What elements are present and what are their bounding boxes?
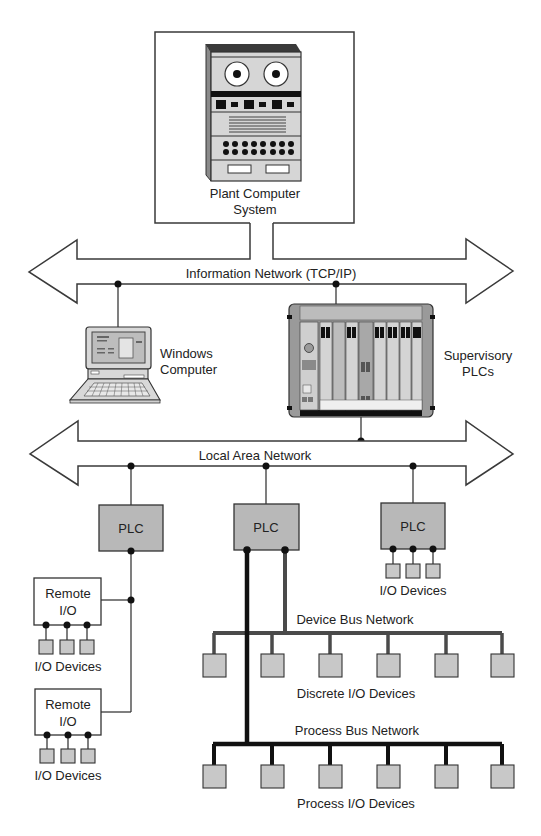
junction-dot (333, 281, 340, 288)
information-network-label: Information Network (TCP/IP) (186, 266, 357, 281)
process-io-devices-label: Process I/O Devices (297, 796, 415, 811)
supervisory-plcs-label: Supervisory (444, 348, 513, 363)
plc-center: PLC (234, 504, 299, 550)
remote-io-1-label: Remote (45, 586, 91, 601)
windows-computer-label-2: Computer (160, 362, 218, 377)
remote-io-2-label: Remote (45, 697, 91, 712)
plc-rack-icon (287, 304, 435, 417)
plant-computer-label: Plant Computer (210, 186, 301, 201)
windows-computer: Windows Computer (70, 327, 218, 403)
mainframe-icon (206, 44, 301, 181)
remote-io-1-label-2: I/O (59, 603, 76, 618)
plc-right: PLC (381, 503, 445, 549)
discrete-io-devices-label: Discrete I/O Devices (297, 686, 416, 701)
remote-io-2-label-2: I/O (59, 714, 76, 729)
information-network-arrow: Information Network (TCP/IP) (29, 223, 513, 303)
supervisory-plcs: Supervisory PLCs (287, 304, 513, 417)
local-area-network-label: Local Area Network (199, 448, 312, 463)
supervisory-plcs-label-2: PLCs (462, 364, 494, 379)
windows-computer-label: Windows (160, 346, 213, 361)
local-area-network-arrow: Local Area Network (30, 421, 513, 485)
plc-right-label: PLC (400, 519, 425, 534)
plant-computer-system: Plant Computer System (155, 32, 354, 223)
laptop-icon (70, 327, 160, 403)
plc-center-label: PLC (253, 520, 278, 535)
plant-computer-label-2: System (233, 202, 276, 217)
process-bus-label: Process Bus Network (295, 723, 420, 738)
remote-io-2: Remote I/O I/O Devices (34, 689, 102, 783)
plc-left-label: PLC (118, 521, 143, 536)
remote-io-1: Remote I/O I/O Devices (34, 578, 102, 674)
plc-right-io-label: I/O Devices (379, 583, 447, 598)
device-bus-label: Device Bus Network (296, 612, 414, 627)
remote-io-2-devices-label: I/O Devices (34, 768, 102, 783)
process-bus-network: Process Bus Network Process I/O Devices (203, 546, 514, 811)
remote-io-1-devices-label: I/O Devices (34, 659, 102, 674)
plc-right-io-devices: I/O Devices (379, 546, 447, 599)
network-diagram: Plant Computer System Information Networ… (0, 0, 541, 836)
junction-dot (115, 281, 122, 288)
device-bus-network: Device Bus Network Discrete I/O Devices (203, 546, 514, 701)
plc-left: PLC (99, 505, 163, 551)
